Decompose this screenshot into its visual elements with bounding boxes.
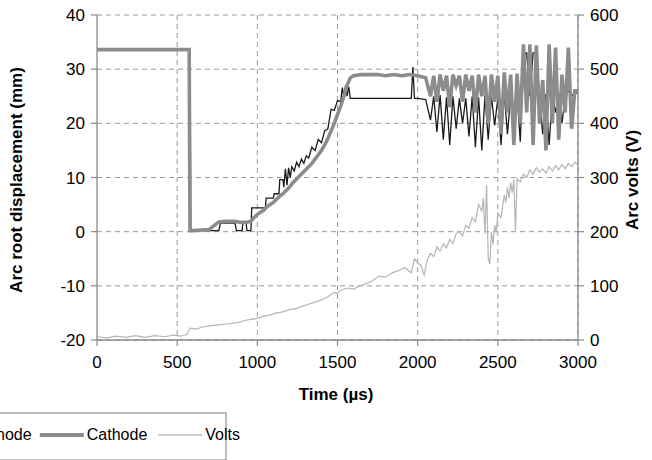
y-tick-label-left: 20 bbox=[66, 114, 85, 133]
y-tick-label-right: 100 bbox=[590, 277, 618, 296]
x-tick-label: 1000 bbox=[238, 353, 276, 372]
x-tick-label: 1500 bbox=[319, 353, 357, 372]
legend-label-anode: node bbox=[0, 426, 32, 443]
y-tick-label-left: 0 bbox=[76, 223, 85, 242]
y-axis-right-title: Arc volts (V) bbox=[623, 130, 642, 230]
chart-legend: nodeCathodeVolts bbox=[0, 413, 240, 460]
x-tick-label: 2500 bbox=[479, 353, 517, 372]
legend-label-cathode: Cathode bbox=[87, 426, 148, 443]
x-axis-title: Time (µs) bbox=[299, 385, 374, 404]
x-tick-label: 2000 bbox=[399, 353, 437, 372]
y-tick-label-right: 600 bbox=[590, 6, 618, 25]
arc-root-displacement-chart: 050010001500200025003000403020100-10-206… bbox=[0, 0, 652, 460]
y-tick-label-left: 40 bbox=[66, 6, 85, 25]
y-tick-label-right: 400 bbox=[590, 114, 618, 133]
x-tick-label: 0 bbox=[92, 353, 101, 372]
y-tick-label-left: -10 bbox=[60, 277, 85, 296]
y-tick-label-left: 30 bbox=[66, 60, 85, 79]
legend-label-volts: Volts bbox=[205, 426, 240, 443]
y-tick-label-left: 10 bbox=[66, 169, 85, 188]
y-tick-label-left: -20 bbox=[60, 331, 85, 350]
y-tick-label-right: 300 bbox=[590, 169, 618, 188]
y-tick-label-right: 200 bbox=[590, 223, 618, 242]
y-tick-label-right: 0 bbox=[590, 331, 599, 350]
chart-figure: 050010001500200025003000403020100-10-206… bbox=[0, 0, 652, 460]
y-axis-left-title: Arc root displacement (mm) bbox=[7, 67, 26, 293]
y-tick-label-right: 500 bbox=[590, 60, 618, 79]
x-tick-label: 500 bbox=[163, 353, 191, 372]
x-tick-label: 3000 bbox=[559, 353, 597, 372]
